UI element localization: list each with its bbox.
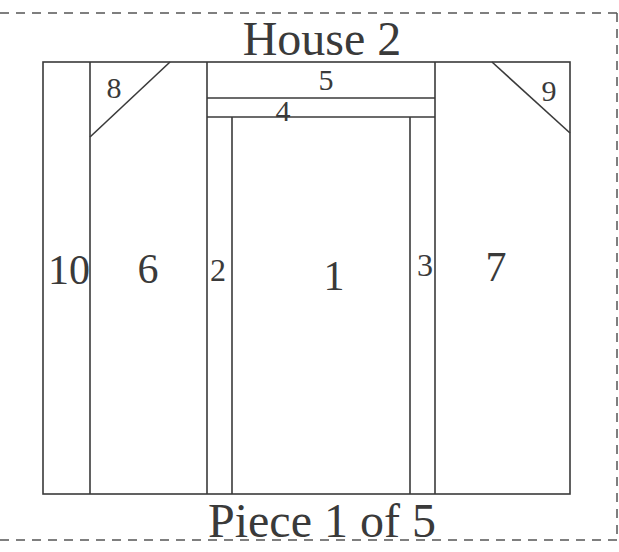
triangle-9-diagonal: [492, 62, 570, 133]
piece-label-2: 2: [210, 252, 226, 288]
diagram-title: House 2: [243, 12, 402, 65]
piece-label-1: 1: [324, 253, 345, 299]
piece-label-7: 7: [486, 244, 507, 290]
piece-label-4: 4: [276, 94, 291, 127]
piece-label-10: 10: [48, 247, 90, 293]
piece-label-8: 8: [107, 71, 122, 104]
piece-label-6: 6: [138, 246, 159, 292]
piece-label-3: 3: [417, 247, 433, 283]
quilt-pattern-diagram: House 2 Piece 1 of 5 1 2 3 4 5 6 7 8 9 1…: [0, 0, 619, 552]
piece-label-5: 5: [319, 63, 334, 96]
piece-count-caption: Piece 1 of 5: [208, 494, 436, 547]
triangle-8-diagonal: [90, 62, 170, 137]
piece-label-9: 9: [542, 74, 557, 107]
